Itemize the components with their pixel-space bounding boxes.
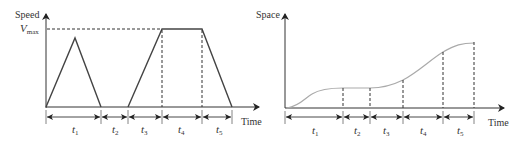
space-y-label: Space <box>256 9 280 20</box>
speed-chart: Speed Vmax Time <box>15 9 262 137</box>
speed-interval-t5: t5 <box>216 123 223 137</box>
space-x-label: Time <box>488 117 509 128</box>
vmax-label: Vmax <box>20 22 39 36</box>
speed-x-label: Time <box>241 116 262 127</box>
space-dimension-ticks <box>285 111 474 124</box>
space-interval-t5: t5 <box>457 124 464 138</box>
motion-profile-diagram: Speed Vmax Time <box>0 0 522 144</box>
space-interval-t1: t1 <box>312 124 319 138</box>
speed-triangle-profile <box>46 38 101 107</box>
space-curve <box>287 43 474 108</box>
space-interval-t3: t3 <box>383 124 390 138</box>
space-interval-t4: t4 <box>420 124 427 138</box>
speed-y-label: Speed <box>15 9 39 20</box>
speed-interval-t1: t1 <box>72 123 79 137</box>
speed-interval-t4: t4 <box>178 123 185 137</box>
space-chart: Space Time t1 t2 t3 <box>256 9 509 138</box>
speed-interval-t2: t2 <box>112 123 119 137</box>
speed-interval-t3: t3 <box>141 123 148 137</box>
speed-trapezoid-profile <box>128 29 232 107</box>
space-interval-t2: t2 <box>354 124 361 138</box>
